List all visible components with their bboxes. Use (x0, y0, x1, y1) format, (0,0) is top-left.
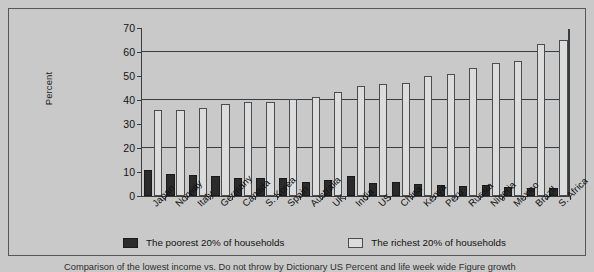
bar-richest (379, 84, 387, 196)
y-axis-title: Percent (43, 44, 54, 134)
y-tick-mark (137, 196, 142, 197)
bar-poorest (347, 176, 355, 196)
plot-area: 010203040506070 (141, 29, 569, 197)
bar-group (165, 29, 188, 196)
y-tick-label: 30 (123, 118, 135, 130)
bar-group (187, 29, 210, 196)
bar-richest (492, 63, 500, 196)
chart-panel: Percent 010203040506070 JapanNorwayItaly… (8, 8, 586, 256)
bar-richest (537, 44, 545, 196)
legend-label-richest: The richest 20% of households (371, 237, 506, 248)
bar-group (457, 29, 480, 196)
bar-group (232, 29, 255, 196)
legend-item-poorest: The poorest 20% of households (123, 237, 284, 248)
bar-group (502, 29, 525, 196)
bar-group (547, 29, 570, 196)
y-tick-label: 50 (123, 70, 135, 82)
bar-richest (514, 61, 522, 196)
bar-richest (154, 110, 162, 196)
bar-group (142, 29, 165, 196)
y-tick-label: 0 (129, 190, 135, 202)
bar-richest (312, 97, 320, 196)
bar-group (210, 29, 233, 196)
bar-richest (402, 83, 410, 196)
bar-group (390, 29, 413, 196)
bar-richest (357, 86, 365, 196)
bar-group (255, 29, 278, 196)
chart-legend: The poorest 20% of households The riches… (123, 237, 506, 248)
bar-poorest (392, 182, 400, 196)
bar-poorest (144, 170, 152, 196)
bar-group (480, 29, 503, 196)
bar-richest (176, 110, 184, 196)
bar-group (367, 29, 390, 196)
bar-richest (469, 68, 477, 196)
bar-group (412, 29, 435, 196)
y-tick-label: 20 (123, 142, 135, 154)
bar-richest (221, 104, 229, 196)
bar-richest (447, 74, 455, 196)
bar-group (435, 29, 458, 196)
bar-richest (559, 40, 567, 196)
legend-swatch-richest (348, 238, 363, 248)
y-tick-label: 40 (123, 94, 135, 106)
bar-richest (424, 76, 432, 196)
y-tick-label: 70 (123, 22, 135, 34)
y-tick-label: 10 (123, 166, 135, 178)
y-tick-label: 60 (123, 46, 135, 58)
bar-group (322, 29, 345, 196)
bar-group (277, 29, 300, 196)
bar-group (300, 29, 323, 196)
bar-group (525, 29, 548, 196)
figure-caption-clipped: Comparison of the lowest income vs. Do n… (64, 262, 534, 272)
figure-chart-income-share: Percent 010203040506070 JapanNorwayItaly… (0, 0, 594, 272)
legend-item-richest: The richest 20% of households (348, 237, 506, 248)
legend-swatch-poorest (123, 238, 138, 248)
legend-label-poorest: The poorest 20% of households (146, 237, 284, 248)
bar-series-container (142, 29, 569, 196)
bar-group (345, 29, 368, 196)
